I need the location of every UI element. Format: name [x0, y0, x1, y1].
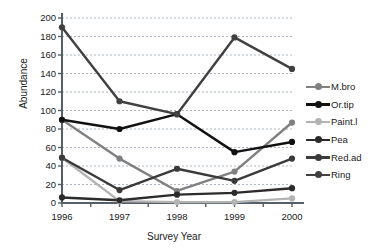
legend-item-paint-l[interactable]: Paint.l — [306, 113, 384, 131]
data-point — [231, 34, 237, 40]
x-tick-label: 1999 — [215, 211, 255, 222]
legend-marker-icon — [306, 134, 330, 146]
abundance-line-chart: Abundance Survey Year 020406080100120140… — [0, 0, 385, 250]
data-point — [174, 192, 180, 198]
series-line-ring — [62, 27, 292, 114]
y-tick-label: 200 — [26, 12, 56, 23]
data-point — [116, 156, 122, 162]
legend-marker-icon — [306, 98, 330, 110]
series-line-or-tip — [62, 114, 292, 152]
y-tick-label: 60 — [26, 142, 56, 153]
data-point — [174, 111, 180, 117]
data-point — [231, 190, 237, 196]
legend-item-ring[interactable]: Ring — [306, 166, 384, 184]
data-point — [116, 197, 122, 203]
legend-label: Pea — [331, 134, 348, 145]
legend-marker-icon — [306, 169, 330, 181]
data-point — [289, 66, 295, 72]
data-point — [231, 149, 237, 155]
data-point — [289, 195, 295, 201]
data-point — [59, 194, 65, 200]
y-tick-label: 20 — [26, 179, 56, 190]
y-tick-label: 180 — [26, 31, 56, 42]
data-point — [59, 117, 65, 123]
data-point — [116, 98, 122, 104]
y-tick-label: 100 — [26, 105, 56, 116]
data-point — [174, 199, 180, 205]
x-tick-label: 1997 — [100, 211, 140, 222]
x-tick-label: 2000 — [272, 211, 312, 222]
legend-marker-icon — [306, 81, 330, 93]
legend-marker-icon — [306, 116, 330, 128]
x-axis-title: Survey Year — [60, 231, 288, 242]
chart-legend: M.broOr.tipPaint.lPeaRed.adRing — [306, 78, 384, 184]
data-point — [231, 199, 237, 205]
x-tick-label: 1996 — [42, 211, 82, 222]
legend-label: M.bro — [331, 81, 355, 92]
data-point — [59, 24, 65, 30]
data-point — [231, 178, 237, 184]
x-tick-label: 1998 — [157, 211, 197, 222]
y-tick-label: 140 — [26, 68, 56, 79]
legend-item-m-bro[interactable]: M.bro — [306, 78, 384, 96]
data-point — [289, 156, 295, 162]
data-point — [231, 168, 237, 174]
series-line-m-bro — [62, 120, 292, 191]
legend-item-pea[interactable]: Pea — [306, 131, 384, 149]
data-point — [59, 155, 65, 161]
legend-item-red-ad[interactable]: Red.ad — [306, 148, 384, 166]
y-tick-label: 0 — [26, 197, 56, 208]
legend-marker-icon — [306, 151, 330, 163]
legend-label: Paint.l — [331, 116, 357, 127]
data-point — [289, 139, 295, 145]
y-tick-label: 80 — [26, 123, 56, 134]
data-point — [116, 126, 122, 132]
legend-label: Ring — [331, 169, 351, 180]
y-tick-label: 120 — [26, 86, 56, 97]
legend-label: Or.tip — [331, 99, 354, 110]
y-tick-label: 40 — [26, 160, 56, 171]
data-point — [116, 187, 122, 193]
data-point — [289, 185, 295, 191]
data-point — [289, 119, 295, 125]
legend-label: Red.ad — [331, 152, 362, 163]
y-tick-label: 160 — [26, 49, 56, 60]
legend-item-or-tip[interactable]: Or.tip — [306, 96, 384, 114]
data-point — [174, 166, 180, 172]
